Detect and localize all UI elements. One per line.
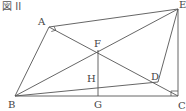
label-B: B (8, 99, 15, 110)
geometry-figure: 図 II A E B C F G H D (0, 0, 186, 111)
segment-AB (15, 27, 49, 96)
label-H: H (87, 73, 96, 84)
segment-AC (49, 27, 178, 96)
figure-title: 図 II (2, 1, 21, 12)
segment-AE (49, 9, 178, 27)
label-F: F (94, 38, 101, 49)
label-G: G (94, 99, 102, 110)
segment-ED (158, 9, 178, 82)
label-C: C (178, 100, 186, 111)
label-E: E (179, 0, 186, 10)
label-D: D (151, 71, 159, 82)
label-A: A (37, 16, 46, 27)
